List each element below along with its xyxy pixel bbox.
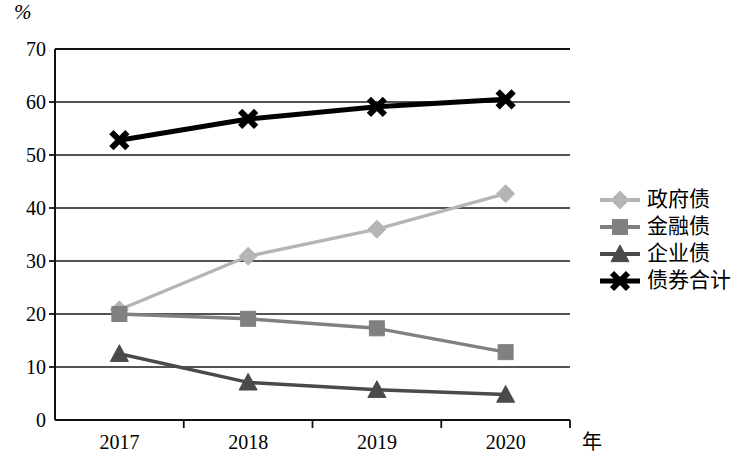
y-axis-tick-label: 30	[2, 251, 46, 271]
triangle-marker-icon	[598, 243, 642, 265]
series-4	[111, 91, 513, 148]
y-axis-tick-label: 40	[2, 198, 46, 218]
square-marker-icon	[498, 345, 513, 360]
series-line	[119, 314, 505, 352]
diamond-marker-icon	[368, 220, 386, 238]
gridlines-group	[55, 102, 570, 367]
x-marker-icon	[598, 270, 642, 292]
x-axis-ticks-group	[184, 420, 570, 428]
y-axis-tick-label: 70	[2, 39, 46, 59]
x-axis-tick-label: 2020	[461, 432, 551, 452]
diamond-marker-icon	[239, 247, 257, 265]
series-1	[110, 185, 514, 319]
y-axis-tick-label: 0	[2, 410, 46, 430]
x-axis-tick-label: 2018	[203, 432, 293, 452]
legend-item-label: 债券合计	[647, 270, 731, 291]
series-3	[110, 345, 514, 402]
legend-item-2[interactable]: 金融债	[598, 213, 731, 240]
diamond-marker-icon	[611, 191, 629, 209]
legend-item-1[interactable]: 政府债	[598, 186, 731, 213]
diamond-marker-icon	[598, 189, 642, 211]
legend-item-label: 金融债	[647, 216, 710, 237]
legend-item-3[interactable]: 企业债	[598, 240, 731, 267]
square-marker-icon	[112, 307, 127, 322]
square-marker-icon	[241, 311, 256, 326]
series-line	[119, 354, 505, 395]
x-axis-tick-label: 2019	[332, 432, 422, 452]
y-axis-tick-label: 50	[2, 145, 46, 165]
square-marker-icon	[369, 321, 384, 336]
square-marker-icon	[613, 219, 628, 234]
legend-item-label: 政府债	[647, 189, 710, 210]
y-axis-tick-label: 60	[2, 92, 46, 112]
triangle-marker-icon	[110, 345, 128, 362]
diamond-marker-icon	[497, 185, 515, 203]
axes-group	[49, 49, 570, 420]
y-axis-tick-label: 10	[2, 357, 46, 377]
series-line	[119, 194, 505, 310]
legend-item-label: 企业债	[647, 243, 710, 264]
x-axis-tick-label: 2017	[74, 432, 164, 452]
square-marker-icon	[598, 216, 642, 238]
data-series-group	[110, 91, 514, 402]
chart-legend: 政府债金融债企业债债券合计	[598, 186, 731, 294]
series-line	[119, 99, 505, 140]
legend-item-4[interactable]: 债券合计	[598, 267, 731, 294]
x-axis-title: 年	[582, 432, 602, 452]
y-axis-tick-label: 20	[2, 304, 46, 324]
